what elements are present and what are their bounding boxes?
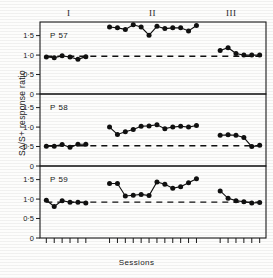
data-point <box>52 144 57 149</box>
panel-label: P 59 <box>50 175 68 184</box>
data-point <box>194 23 199 28</box>
data-point <box>139 25 144 30</box>
data-point <box>162 26 167 31</box>
data-point <box>68 200 73 205</box>
y-tick-label: 0 <box>30 162 34 171</box>
x-axis-ticks <box>46 238 259 243</box>
data-point <box>186 180 191 185</box>
data-point <box>194 176 199 181</box>
data-point <box>233 133 238 138</box>
data-point <box>233 198 238 203</box>
y-tick-label: 1·5 <box>23 31 34 40</box>
data-point <box>186 28 191 33</box>
data-point <box>226 196 231 201</box>
data-point <box>218 133 223 138</box>
data-point <box>52 204 57 209</box>
data-point <box>241 53 246 58</box>
data-point <box>107 181 112 186</box>
data-point <box>170 25 175 30</box>
data-point <box>60 142 65 147</box>
data-point <box>60 53 65 58</box>
data-point <box>107 125 112 130</box>
data-point <box>131 22 136 27</box>
data-point <box>60 198 65 203</box>
data-point <box>218 188 223 193</box>
y-tick-label: 0 <box>30 90 34 99</box>
data-point <box>257 200 262 205</box>
data-point <box>162 182 167 187</box>
series-line-phase-II <box>110 179 197 196</box>
data-point <box>75 200 80 205</box>
data-point <box>147 33 152 38</box>
series-line-phase-II <box>110 25 197 36</box>
y-axis-label: S∆/S+ response ratio <box>17 53 27 173</box>
data-point <box>68 55 73 60</box>
data-point <box>218 48 223 53</box>
data-point <box>154 179 159 184</box>
data-point <box>249 53 254 58</box>
data-point <box>44 198 49 203</box>
data-point <box>123 193 128 198</box>
y-tick-label: 1·0 <box>23 195 34 204</box>
data-point <box>257 143 262 148</box>
panel-frame <box>40 94 266 166</box>
data-point <box>170 186 175 191</box>
data-point <box>249 200 254 205</box>
panel-p-57: 00·51·01·5P 57 <box>23 22 266 99</box>
data-point <box>44 55 49 60</box>
data-point <box>131 127 136 132</box>
data-point <box>147 123 152 128</box>
data-point <box>178 25 183 30</box>
chart-svg: 00·51·01·5P 5700·51·01·5P 5800·51·01·5P … <box>0 0 273 278</box>
data-point <box>115 132 120 137</box>
data-point <box>75 57 80 62</box>
data-point <box>75 142 80 147</box>
data-point <box>241 199 246 204</box>
data-point <box>83 54 88 59</box>
figure-container: I II III 00·51·01·5P 5700·51·01·5P 5800·… <box>0 0 273 278</box>
data-point <box>139 124 144 129</box>
panel-p-59: 00·51·01·5P 59 <box>23 166 266 243</box>
y-tick-label: 0 <box>30 234 34 243</box>
data-point <box>170 125 175 130</box>
data-point <box>115 181 120 186</box>
data-point <box>186 125 191 130</box>
data-point <box>123 129 128 134</box>
data-point <box>241 135 246 140</box>
data-point <box>44 144 49 149</box>
data-point <box>162 126 167 131</box>
panel-p-58: 00·51·01·5P 58 <box>23 94 266 171</box>
data-point <box>249 144 254 149</box>
data-point <box>52 55 57 60</box>
data-point <box>226 132 231 137</box>
data-point <box>83 142 88 147</box>
y-tick-label: 0·5 <box>23 214 34 223</box>
series-line-phase-III <box>220 135 260 147</box>
data-point <box>257 53 262 58</box>
data-point <box>68 145 73 150</box>
data-point <box>154 122 159 127</box>
data-point <box>115 25 120 30</box>
data-point <box>107 25 112 30</box>
x-axis-label: Sessions <box>0 258 273 267</box>
data-point <box>131 193 136 198</box>
panel-label: P 57 <box>50 31 68 40</box>
data-point <box>226 45 231 50</box>
data-point <box>178 184 183 189</box>
data-point <box>83 200 88 205</box>
data-point <box>194 123 199 128</box>
data-point <box>139 192 144 197</box>
y-tick-label: 1·5 <box>23 175 34 184</box>
panel-label: P 58 <box>50 103 68 112</box>
data-point <box>154 24 159 29</box>
data-point <box>178 124 183 129</box>
series-line-phase-II <box>110 125 197 135</box>
y-axis-label-text: S∆/S+ response ratio <box>17 70 27 156</box>
data-point <box>147 193 152 198</box>
data-point <box>123 27 128 32</box>
data-point <box>233 51 238 56</box>
